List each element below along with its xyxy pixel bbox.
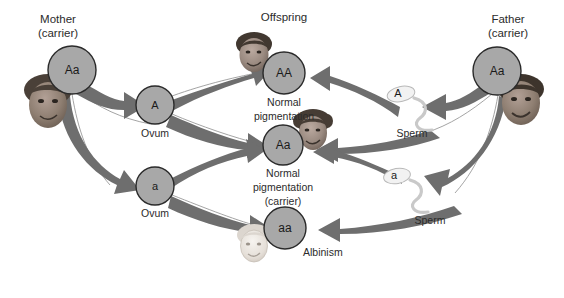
heading-offspring: Offspring bbox=[261, 11, 307, 23]
child-aa-eye-right bbox=[257, 243, 261, 246]
offspring-AA-phenotype-line2: pigmentation bbox=[254, 110, 314, 122]
mother-eye-right bbox=[52, 99, 58, 103]
child-Aa-eye-left bbox=[305, 128, 310, 131]
ovum-A-allele: A bbox=[151, 99, 159, 111]
sperm-a-allele: a bbox=[391, 169, 398, 181]
sperm-A-label: Sperm bbox=[397, 127, 428, 139]
father-label: Father bbox=[491, 13, 524, 25]
offspring-AA-phenotype-line1: Normal bbox=[267, 96, 301, 108]
diagram-canvas: Mother (carrier) Offspring Father (carri… bbox=[0, 0, 564, 298]
mother-sublabel: (carrier) bbox=[38, 27, 78, 39]
offspring-aa-phenotype-line1: Albinism bbox=[303, 246, 343, 258]
father-connector-2 bbox=[455, 95, 498, 193]
child-AA-eye-right bbox=[257, 50, 262, 53]
father-sublabel: (carrier) bbox=[488, 27, 528, 39]
sperm-A-allele: A bbox=[394, 87, 402, 99]
mother-label: Mother bbox=[40, 13, 76, 25]
ovum-A-node[interactable]: A Ovum bbox=[136, 86, 174, 139]
arrow-ovumA-to-AA bbox=[172, 65, 272, 110]
offspring-label: Offspring bbox=[261, 11, 307, 23]
heading-mother: Mother (carrier) bbox=[38, 13, 78, 39]
mother-eye-left bbox=[38, 99, 44, 103]
heading-father: Father (carrier) bbox=[488, 13, 528, 39]
father-genotype-text: Aa bbox=[490, 64, 505, 78]
mother-genotype-text: Aa bbox=[65, 63, 80, 77]
albinism-inheritance-diagram: Mother (carrier) Offspring Father (carri… bbox=[0, 0, 564, 298]
ovum-A-label: Ovum bbox=[141, 127, 169, 139]
offspring-Aa-phenotype-line2: pigmentation bbox=[253, 181, 313, 193]
father-eye-left bbox=[511, 97, 517, 101]
child-Aa-eye-right bbox=[316, 128, 321, 131]
ovum-a-node[interactable]: a Ovum bbox=[136, 167, 174, 219]
arrow-ovuma-to-Aa bbox=[170, 139, 266, 189]
child-AA-eye-left bbox=[246, 50, 251, 53]
offspring-Aa-phenotype-line1: Normal bbox=[266, 167, 300, 179]
ovum-a-label: Ovum bbox=[141, 207, 169, 219]
ovum-a-allele: a bbox=[152, 180, 159, 192]
sperm-a-label: Sperm bbox=[415, 214, 446, 226]
offspring-Aa-genotype: Aa bbox=[276, 138, 291, 152]
arrow-spermA-to-AA bbox=[310, 66, 400, 117]
offspring-Aa-phenotype-line3: (carrier) bbox=[265, 195, 302, 207]
offspring-aa-genotype: aa bbox=[278, 221, 292, 235]
mother-genotype-node[interactable]: Aa bbox=[48, 46, 96, 94]
offspring-AA-genotype: AA bbox=[276, 66, 292, 80]
child-aa-eye-left bbox=[246, 243, 250, 246]
father-eye-right bbox=[525, 97, 531, 101]
father-genotype-node[interactable]: Aa bbox=[473, 47, 521, 95]
